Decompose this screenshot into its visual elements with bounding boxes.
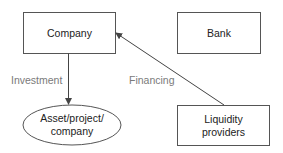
financing-edge-label: Financing	[129, 74, 175, 86]
liquidity-label-line1: Liquidity	[204, 113, 243, 126]
financing-diagram: Company Bank Asset/project/ company Liqu…	[0, 0, 283, 153]
investment-edge-label: Investment	[11, 74, 62, 86]
company-label: Company	[47, 27, 92, 40]
asset-label-line1: Asset/project/	[40, 112, 104, 125]
asset-node-label: Asset/project/ company	[23, 105, 121, 145]
bank-node-label: Bank	[177, 12, 261, 54]
liquidity-providers-node-label: Liquidity providers	[177, 105, 270, 146]
asset-label-line2: company	[51, 125, 94, 138]
liquidity-label-line2: providers	[202, 126, 245, 139]
bank-label: Bank	[207, 27, 231, 40]
company-node-label: Company	[23, 12, 116, 54]
